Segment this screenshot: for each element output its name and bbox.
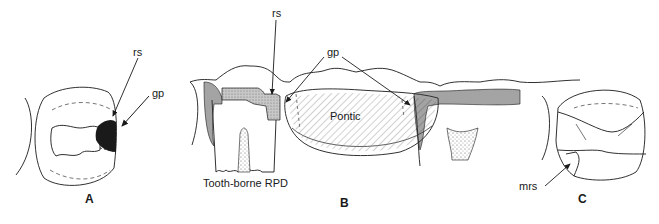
label-rs-a: rs <box>133 47 142 58</box>
label-mrs-c: mrs <box>519 181 537 192</box>
guide-plane-fill-a <box>96 120 116 152</box>
pulp-left <box>238 128 250 172</box>
tooth-outline-c <box>556 90 645 180</box>
label-rs-b: rs <box>272 8 281 19</box>
rs-arrow-a <box>113 58 138 116</box>
label-pontic: Pontic <box>330 111 361 122</box>
label-gp-a: gp <box>152 88 164 99</box>
panel-letter-c: C <box>578 193 587 205</box>
gp-arrow-a <box>122 96 149 126</box>
pulp-right <box>447 128 478 160</box>
mrs-arrow-c <box>545 164 570 186</box>
adjacent-tooth-outline <box>16 98 32 175</box>
abutment-hatch-left <box>204 82 222 146</box>
label-gp-b: gp <box>327 47 339 58</box>
rest-seat-casting-b <box>222 88 280 120</box>
panel-letter-a: A <box>85 193 94 205</box>
rs-arrow-b <box>272 20 276 94</box>
caption-tooth-borne-rpd: Tooth-borne RPD <box>203 178 288 189</box>
panel-c-tooth <box>542 90 646 180</box>
panel-letter-b: B <box>340 197 349 209</box>
